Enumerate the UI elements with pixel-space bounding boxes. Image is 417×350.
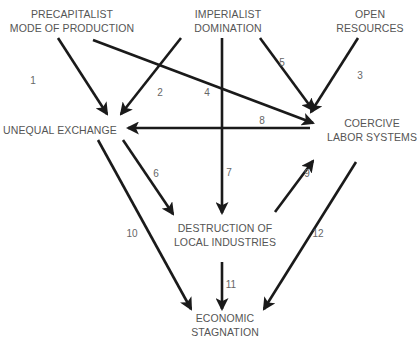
node-precapitalist: PRECAPITALISTMODE OF PRODUCTION	[10, 7, 134, 35]
node-label-line: OPEN	[336, 7, 403, 21]
node-label-line: RESOURCES	[336, 21, 403, 35]
node-open-resources: OPENRESOURCES	[336, 7, 403, 35]
node-label-line: LABOR SYSTEMS	[327, 130, 417, 144]
edge-label: 10	[126, 228, 137, 240]
arrow-precapitalist-to-coercive-labor-icon	[93, 40, 313, 123]
node-stagnation: ECONOMICSTAGNATION	[191, 311, 259, 339]
arrow-precapitalist-to-unequal-exchange-icon	[58, 38, 107, 114]
node-label-line: IMPERIALIST	[194, 7, 261, 21]
node-label-line: DOMINATION	[194, 21, 261, 35]
edge-label: 6	[153, 168, 159, 180]
arrow-imperialist-to-coercive-labor-icon	[260, 38, 313, 110]
arrow-open-resources-to-coercive-labor-icon	[311, 38, 358, 112]
node-label-line: ECONOMIC	[191, 311, 259, 325]
node-imperialist: IMPERIALISTDOMINATION	[194, 7, 261, 35]
node-coercive-labor: COERCIVELABOR SYSTEMS	[327, 116, 417, 144]
arrow-unequal-exchange-to-destruction-icon	[123, 140, 173, 214]
edge-label: 1	[30, 75, 36, 87]
edge-label: 9	[304, 168, 310, 180]
edge-label: 2	[157, 87, 163, 99]
node-label-line: STAGNATION	[191, 325, 259, 339]
node-destruction: DESTRUCTION OFLOCAL INDUSTRIES	[174, 221, 276, 249]
node-label-line: COERCIVE	[327, 116, 417, 130]
node-label-line: UNEQUAL EXCHANGE	[3, 123, 117, 137]
edge-label: 3	[357, 70, 363, 82]
arrow-imperialist-to-unequal-exchange-icon	[121, 38, 181, 114]
node-label-line: PRECAPITALIST	[10, 7, 134, 21]
arrow-coercive-labor-to-stagnation-icon	[264, 162, 356, 309]
edge-label: 5	[279, 57, 285, 69]
node-label-line: DESTRUCTION OF	[174, 221, 276, 235]
node-label-line: LOCAL INDUSTRIES	[174, 235, 276, 249]
edge-label: 12	[312, 228, 323, 240]
node-unequal-exchange: UNEQUAL EXCHANGE	[3, 123, 117, 137]
edge-label: 8	[259, 115, 265, 127]
edge-label: 11	[226, 279, 236, 291]
edge-label: 4	[204, 87, 210, 99]
node-label-line: MODE OF PRODUCTION	[10, 21, 134, 35]
edge-label: 7	[226, 167, 232, 179]
